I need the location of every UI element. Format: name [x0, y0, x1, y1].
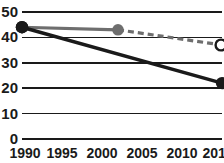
y-tick-label-10: 10 — [1, 105, 18, 122]
y-tick-label-50: 50 — [1, 3, 18, 20]
x-tick-label-2010: 2010 — [166, 145, 197, 161]
dark-series-line — [22, 27, 222, 83]
marker-gray-series-2002 — [112, 24, 124, 36]
y-tick-label-40: 40 — [1, 28, 18, 45]
chart-canvas: 01020304050 199019952000200520102015 — [0, 0, 224, 163]
x-tick-label-1995: 1995 — [46, 145, 77, 161]
x-axis-tick-labels: 199019952000200520102015 — [9, 145, 224, 161]
x-tick-label-2015: 2015 — [202, 145, 224, 161]
x-tick-label-2000: 2000 — [86, 145, 117, 161]
y-tick-label-30: 30 — [1, 54, 18, 71]
data-series — [22, 27, 222, 83]
marker-dark-series-1990 — [16, 21, 28, 33]
x-tick-label-2005: 2005 — [126, 145, 157, 161]
y-tick-label-20: 20 — [1, 79, 18, 96]
line-chart: 01020304050 199019952000200520102015 — [0, 0, 224, 163]
x-tick-label-1990: 1990 — [9, 145, 40, 161]
gray-series-solid-segment — [22, 27, 118, 30]
y-axis-tick-labels: 01020304050 — [1, 3, 18, 147]
marker-gray-series-2015 — [216, 40, 224, 51]
